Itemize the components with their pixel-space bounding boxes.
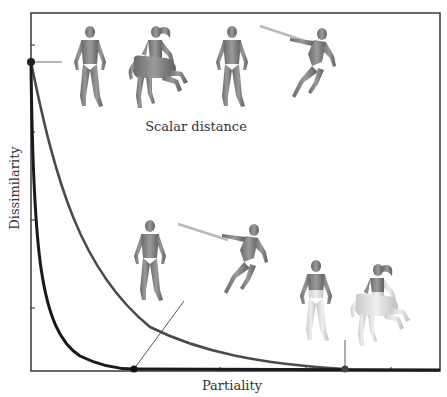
x-axis-label: Partiality — [202, 378, 263, 393]
scalar-distance-label: Scalar distance — [145, 119, 247, 134]
human-shape-icon-2 — [216, 26, 248, 107]
marker-full — [27, 58, 35, 66]
leader-line-2 — [134, 301, 184, 369]
runner-shape-icon-2 — [222, 224, 268, 294]
marker-javelin — [131, 366, 138, 373]
human-shape-icon-3 — [134, 220, 166, 301]
centaur-shape-icon — [129, 26, 188, 108]
y-axis-label: Dissimilarity — [7, 146, 22, 230]
grey-curve — [31, 62, 345, 369]
plot-frame — [31, 13, 440, 371]
marker-partial — [342, 366, 349, 373]
partial-centaur-shape-icon — [351, 264, 410, 346]
human-shape-icon — [74, 26, 106, 107]
partial-human-shape-icon — [300, 260, 332, 341]
figure: Scalar distance Partiality Dissimilarity — [0, 0, 447, 397]
javelin-icon-2 — [178, 224, 228, 240]
black-curve — [31, 62, 440, 370]
